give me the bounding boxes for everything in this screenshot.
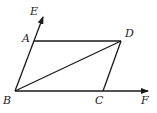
geometry-diagram: E A D B C F: [0, 0, 157, 113]
label-d: D: [124, 27, 134, 40]
diagram-canvas: E A D B C F: [0, 0, 157, 113]
label-e: E: [29, 5, 38, 18]
label-a: A: [21, 32, 30, 45]
label-b: B: [2, 94, 11, 107]
label-f: F: [140, 94, 149, 107]
label-c: C: [95, 94, 104, 107]
